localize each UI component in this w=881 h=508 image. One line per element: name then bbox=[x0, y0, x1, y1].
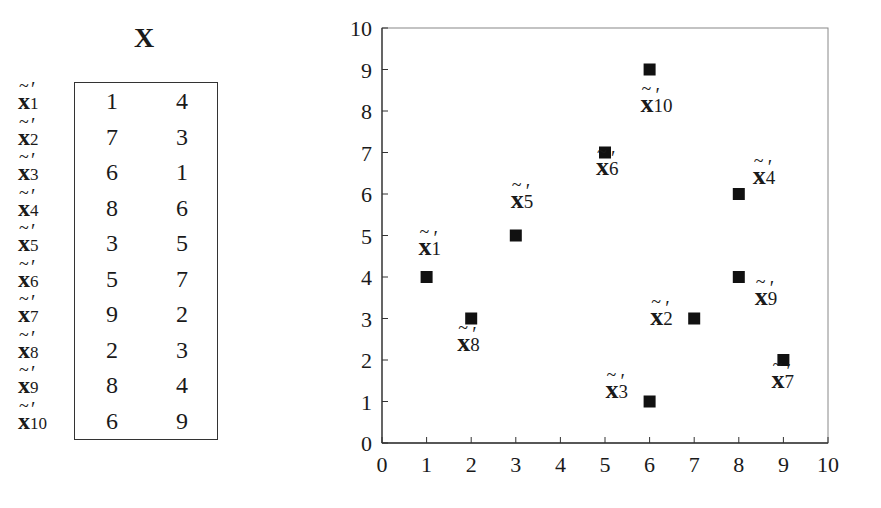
x-tick-label: 7 bbox=[689, 452, 700, 477]
y-tick-label: 7 bbox=[361, 141, 372, 166]
x-tick-label: 4 bbox=[555, 452, 566, 477]
prime-mark: ′ bbox=[526, 180, 530, 202]
x-tick-label: 8 bbox=[733, 452, 744, 477]
prime-mark: ′ bbox=[434, 227, 438, 249]
x-tick-label: 6 bbox=[644, 452, 655, 477]
tilde-mark: ~ bbox=[754, 151, 764, 171]
tilde-mark: ~ bbox=[458, 318, 468, 338]
prime-mark: ′ bbox=[786, 360, 790, 382]
prime-mark: ′ bbox=[472, 323, 476, 345]
data-point bbox=[644, 64, 656, 76]
y-tick-label: 8 bbox=[361, 99, 372, 124]
tilde-mark: ~ bbox=[756, 272, 766, 292]
data-point bbox=[688, 313, 700, 325]
data-point bbox=[733, 188, 745, 200]
x-tick-label: 2 bbox=[466, 452, 477, 477]
x-tick-label: 5 bbox=[600, 452, 611, 477]
tilde-mark: ~ bbox=[651, 292, 661, 312]
prime-mark: ′ bbox=[611, 147, 615, 169]
y-tick-label: 4 bbox=[361, 265, 372, 290]
y-tick-label: 6 bbox=[361, 182, 372, 207]
y-tick-label: 5 bbox=[361, 224, 372, 249]
y-tick-label: 3 bbox=[361, 307, 372, 332]
tilde-mark: ~ bbox=[597, 142, 607, 162]
tilde-mark: ~ bbox=[512, 175, 522, 195]
prime-mark: ′ bbox=[621, 370, 625, 392]
tilde-mark: ~ bbox=[607, 365, 617, 385]
y-tick-label: 1 bbox=[361, 390, 372, 415]
prime-mark: ′ bbox=[770, 277, 774, 299]
tilde-mark: ~ bbox=[772, 355, 782, 375]
y-tick-label: 9 bbox=[361, 58, 372, 83]
scatter-plot: 012345678910012345678910x1~′x2~′x3~′x4~′… bbox=[0, 0, 881, 508]
x-tick-label: 10 bbox=[817, 452, 839, 477]
y-tick-label: 2 bbox=[361, 348, 372, 373]
tilde-mark: ~ bbox=[642, 79, 652, 99]
data-point bbox=[733, 271, 745, 283]
y-tick-label: 10 bbox=[350, 16, 372, 41]
x-tick-label: 0 bbox=[377, 452, 388, 477]
data-point bbox=[644, 396, 656, 408]
tilde-mark: ~ bbox=[420, 222, 430, 242]
data-point bbox=[421, 271, 433, 283]
prime-mark: ′ bbox=[665, 297, 669, 319]
x-tick-label: 3 bbox=[510, 452, 521, 477]
prime-mark: ′ bbox=[656, 84, 660, 106]
x-tick-label: 9 bbox=[778, 452, 789, 477]
data-point bbox=[510, 230, 522, 242]
x-tick-label: 1 bbox=[421, 452, 432, 477]
y-tick-label: 0 bbox=[361, 431, 372, 456]
prime-mark: ′ bbox=[768, 156, 772, 178]
